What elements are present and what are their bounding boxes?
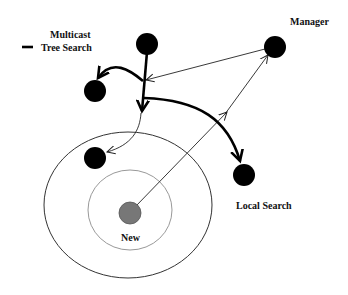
edge-manager-to-root — [146, 49, 265, 80]
node-root — [136, 33, 158, 55]
search-diagram: Multicast Tree Search Manager Local Sear… — [0, 0, 348, 295]
node-upper-left — [84, 80, 106, 102]
label-local-search: Local Search — [236, 200, 292, 211]
edge-new-to-manager-end — [225, 55, 268, 114]
edge-new-to-manager — [136, 112, 227, 206]
legend-entry-label: Tree Search — [41, 42, 92, 53]
node-lower-left — [84, 147, 106, 169]
node-local-search — [233, 164, 255, 186]
node-manager — [264, 36, 286, 58]
legend-title: Multicast — [50, 29, 91, 40]
edge-root-trunk — [142, 52, 147, 111]
label-new: New — [121, 232, 141, 243]
edge-branch-to-local-search — [144, 98, 240, 161]
node-new — [119, 202, 141, 224]
label-manager: Manager — [290, 16, 329, 27]
edge-root-to-upper-left — [98, 67, 143, 81]
